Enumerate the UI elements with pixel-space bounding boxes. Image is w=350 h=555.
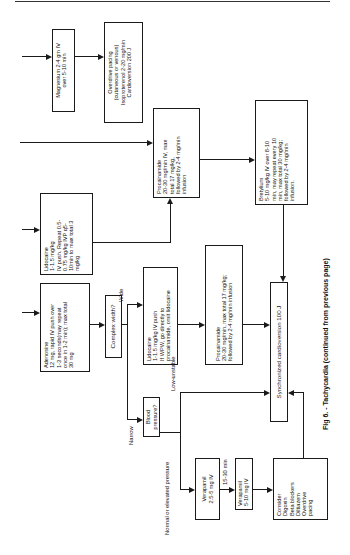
complex-width-box: Complex width? [105, 295, 122, 358]
arrow-head-icon [99, 322, 105, 328]
page-border-line [15, 1, 330, 2]
low-unstable-label: Low-unstable [170, 357, 177, 391]
arrow-head-icon [189, 487, 195, 493]
connector-line [283, 205, 284, 276]
connector-line [170, 204, 171, 243]
arrow-head-icon [167, 198, 173, 204]
interval-label: 15-30 min [222, 459, 229, 485]
adenosine-box: Adenosine 12 mg, rapid IV push over 1-3 … [40, 283, 90, 372]
connector-line [200, 159, 250, 160]
arrow-head-icon [199, 322, 205, 328]
normal-elevated-label: Normal or elevated pressure [164, 462, 171, 535]
connector-line [253, 489, 268, 490]
arrow-head-icon [46, 54, 52, 60]
consider-box: Consider Digoxin Beta blockers Diltiazem… [273, 458, 328, 520]
arrow-head-icon [34, 227, 40, 233]
connector-line [180, 392, 265, 393]
arrow-head-icon [264, 390, 270, 396]
connector-line [243, 324, 265, 325]
connector-line [303, 392, 304, 458]
arrow-head-icon [229, 487, 235, 493]
synchronized-cardioversion-box: Synchronized cardioversion 100 J [270, 282, 288, 422]
verapamil-1-box: Verapamil 2.5-5 mg IV [195, 458, 220, 520]
figure-caption: Fig 6. - Tachycardia (continued from pre… [322, 258, 329, 430]
connector-line [75, 56, 99, 57]
arrow-head-icon [249, 157, 255, 163]
lidocaine-top-box: Lidocaine 1-1.5 mg/kg IV push. Repeat 0.… [40, 193, 93, 275]
arrow-head-icon [264, 322, 270, 328]
connector-line [93, 242, 170, 243]
arrow-head-icon [280, 276, 286, 282]
connector-line [22, 56, 47, 57]
connector-line [178, 324, 200, 325]
connector-line [127, 305, 128, 420]
arrow-head-icon [267, 487, 273, 493]
lidocaine-mid-box: Lidocaine 1-1.5 mg/kg IV push If WPW, go… [143, 267, 178, 365]
overdrive-pacing-box: Overdrive pacing (cutaneous or venous) I… [104, 22, 143, 123]
narrow-label: Narrow [128, 426, 135, 445]
procainamide-mid-box: Procainamide 20-30 mg/min, max total 17 … [205, 245, 243, 365]
blood-pressure-box: Blood pressure? [143, 397, 160, 437]
arrow-head-icon [34, 310, 40, 316]
connector-line [180, 393, 181, 490]
connector-line [294, 392, 303, 393]
arrow-head-icon [137, 417, 143, 423]
arrow-head-icon [147, 140, 153, 146]
bretylium-box: Bretylium 5-10 mg/kg IV over 8-10 min, m… [255, 100, 308, 205]
magnesium-box: Magnesium 2-4 gm IV over 5-10 min [52, 29, 75, 112]
connector-line [20, 142, 148, 143]
procainamide-top-box: Procainamide 20-30 mg/min IV, max total … [153, 108, 200, 198]
wide-label: Wide [118, 289, 125, 302]
arrow-head-icon [137, 302, 143, 308]
arrow-head-icon [98, 54, 104, 60]
connector-line [160, 432, 180, 433]
verapamil-2-box: Verapamil 5-10 mg IV [235, 458, 253, 510]
tachycardia-flowchart: Magnesium 2-4 gm IV over 5-10 min Overdr… [0, 0, 350, 555]
arrow-head-icon [288, 390, 294, 396]
